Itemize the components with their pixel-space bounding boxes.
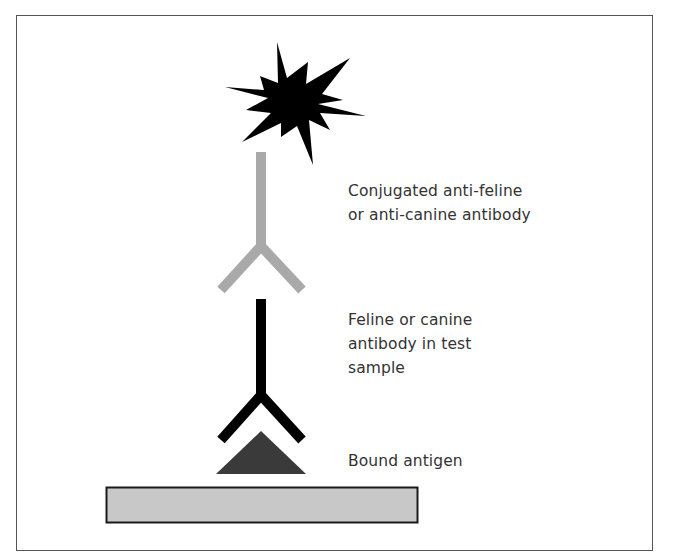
conjugated-antibody-label: Conjugated anti-feline or anti-canine an… — [348, 179, 531, 227]
conjugated-antibody-icon — [221, 152, 302, 290]
sample-antibody-label: Feline or canine antibody in test sample — [348, 308, 472, 380]
starburst-signal-icon — [225, 42, 366, 165]
diagram-artwork — [0, 0, 674, 560]
solid-phase-plate — [107, 488, 418, 523]
bound-antigen-label: Bound antigen — [348, 449, 463, 473]
sample-antibody-icon — [221, 299, 302, 440]
